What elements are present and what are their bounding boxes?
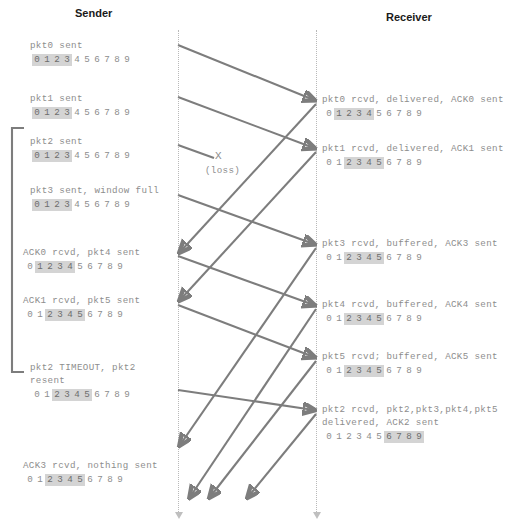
seq-cell-7: 7 <box>95 261 105 273</box>
seq-cell-9: 9 <box>414 365 424 377</box>
seq-cell-6: 6 <box>85 261 95 273</box>
seq-cell-5: 5 <box>374 108 384 120</box>
sender-event-ack0-rcvd-window: 0123456789 <box>25 261 125 273</box>
seq-cell-8: 8 <box>105 474 115 486</box>
seq-cell-0: 0 <box>324 108 334 120</box>
seq-cell-9: 9 <box>414 431 424 443</box>
sender-event-pkt2-timeout-window: 0123456789 <box>32 389 132 401</box>
receiver-event-pkt0-rcvd-window: 0123456789 <box>324 108 424 120</box>
seq-cell-4: 4 <box>364 365 374 377</box>
sender-event-ack3-rcvd-text-0: ACK3 rcvd, nothing sent <box>23 460 158 473</box>
seq-cell-0: 0 <box>32 107 42 119</box>
seq-cell-3: 3 <box>354 365 364 377</box>
sender-event-pkt2-timeout-text-1: resent <box>30 375 65 388</box>
seq-cell-1: 1 <box>42 389 52 401</box>
pkt3-transit-arrow <box>178 195 314 244</box>
seq-cell-5: 5 <box>82 150 92 162</box>
seq-cell-6: 6 <box>92 199 102 211</box>
sender-event-ack3-rcvd-window: 0123456789 <box>25 474 125 486</box>
seq-cell-4: 4 <box>364 108 374 120</box>
seq-cell-7: 7 <box>102 389 112 401</box>
seq-cell-9: 9 <box>115 309 125 321</box>
seq-cell-2: 2 <box>344 313 354 325</box>
seq-cell-7: 7 <box>102 107 112 119</box>
seq-cell-6: 6 <box>384 365 394 377</box>
receiver-event-pkt4-rcvd-window: 0123456789 <box>324 313 424 325</box>
seq-cell-0: 0 <box>324 365 334 377</box>
seq-cell-5: 5 <box>82 389 92 401</box>
seq-cell-2: 2 <box>344 431 354 443</box>
seq-cell-9: 9 <box>122 107 132 119</box>
ack5-return-arrow <box>210 361 316 497</box>
seq-cell-8: 8 <box>404 365 414 377</box>
seq-cell-2: 2 <box>52 389 62 401</box>
seq-cell-7: 7 <box>102 150 112 162</box>
seq-cell-8: 8 <box>105 309 115 321</box>
seq-cell-5: 5 <box>374 365 384 377</box>
seq-cell-7: 7 <box>95 309 105 321</box>
seq-cell-7: 7 <box>394 365 404 377</box>
seq-cell-8: 8 <box>404 157 414 169</box>
sender-event-pkt0-sent-window: 0123456789 <box>32 54 132 66</box>
receiver-event-pkt2-rcvd-text-1: delivered, ACK2 sent <box>322 417 439 430</box>
seq-cell-7: 7 <box>394 313 404 325</box>
seq-cell-1: 1 <box>334 365 344 377</box>
seq-cell-5: 5 <box>374 431 384 443</box>
seq-cell-1: 1 <box>42 199 52 211</box>
seq-cell-2: 2 <box>52 150 62 162</box>
seq-cell-5: 5 <box>374 157 384 169</box>
seq-cell-2: 2 <box>344 252 354 264</box>
seq-cell-6: 6 <box>384 431 394 443</box>
seq-cell-3: 3 <box>62 107 72 119</box>
seq-cell-3: 3 <box>62 389 72 401</box>
receiver-event-pkt2-rcvd-window: 0123456789 <box>324 431 424 443</box>
seq-cell-0: 0 <box>32 54 42 66</box>
seq-cell-6: 6 <box>384 252 394 264</box>
sender-event-ack1-rcvd-window: 0123456789 <box>25 309 125 321</box>
pkt1-transit-arrow <box>178 97 314 148</box>
seq-cell-8: 8 <box>112 150 122 162</box>
seq-cell-2: 2 <box>344 365 354 377</box>
seq-cell-7: 7 <box>102 54 112 66</box>
receiver-event-pkt4-rcvd-text-0: pkt4 rcvd, buffered, ACK4 sent <box>322 299 498 312</box>
seq-cell-4: 4 <box>364 431 374 443</box>
seq-cell-2: 2 <box>45 309 55 321</box>
sender-event-pkt0-sent-text-0: pkt0 sent <box>30 40 83 53</box>
seq-cell-0: 0 <box>25 261 35 273</box>
seq-cell-2: 2 <box>45 261 55 273</box>
seq-cell-3: 3 <box>62 150 72 162</box>
sender-event-pkt3-sent-text-0: pkt3 sent, window full <box>30 185 159 198</box>
seq-cell-0: 0 <box>25 474 35 486</box>
seq-cell-0: 0 <box>32 389 42 401</box>
seq-cell-3: 3 <box>354 313 364 325</box>
seq-cell-2: 2 <box>344 108 354 120</box>
seq-cell-1: 1 <box>35 474 45 486</box>
seq-cell-8: 8 <box>112 54 122 66</box>
seq-cell-4: 4 <box>65 309 75 321</box>
seq-cell-9: 9 <box>122 389 132 401</box>
seq-cell-5: 5 <box>374 252 384 264</box>
seq-cell-4: 4 <box>364 313 374 325</box>
pkt2-resent-arrow <box>178 390 314 410</box>
seq-cell-4: 4 <box>72 389 82 401</box>
seq-cell-1: 1 <box>334 431 344 443</box>
seq-cell-6: 6 <box>92 389 102 401</box>
sender-event-pkt2-timeout-text-0: pkt2 TIMEOUT, pkt2 <box>30 362 136 375</box>
seq-cell-0: 0 <box>32 150 42 162</box>
seq-cell-0: 0 <box>25 309 35 321</box>
seq-cell-0: 0 <box>324 313 334 325</box>
seq-cell-9: 9 <box>115 474 125 486</box>
sender-event-pkt2-sent-text-0: pkt2 sent <box>30 136 83 149</box>
seq-cell-8: 8 <box>105 261 115 273</box>
seq-cell-5: 5 <box>374 313 384 325</box>
seq-cell-1: 1 <box>334 108 344 120</box>
seq-cell-1: 1 <box>42 150 52 162</box>
seq-cell-6: 6 <box>384 157 394 169</box>
seq-cell-2: 2 <box>45 474 55 486</box>
seq-cell-9: 9 <box>414 108 424 120</box>
seq-cell-8: 8 <box>112 389 122 401</box>
seq-cell-6: 6 <box>384 108 394 120</box>
seq-cell-6: 6 <box>85 309 95 321</box>
seq-cell-4: 4 <box>364 252 374 264</box>
seq-cell-8: 8 <box>112 199 122 211</box>
